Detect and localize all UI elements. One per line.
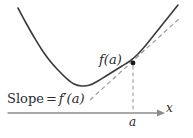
x-axis-arrow-icon [157, 109, 165, 116]
x-tick-label-a-text: a [129, 115, 136, 129]
slope-word: Slope [7, 91, 44, 106]
derivative-tangent-figure: f(a) Slope=f′(a) a x [0, 0, 193, 138]
tangent-point-marker [131, 61, 136, 66]
label-f-of-a-text: f(a) [99, 52, 122, 67]
x-axis-label: x [166, 102, 173, 114]
slope-derivative-expression: f′(a) [59, 91, 85, 106]
label-slope-equals-fprime-a: Slope=f′(a) [7, 92, 84, 105]
x-axis-label-text: x [166, 101, 173, 115]
label-f-of-a: f(a) [99, 53, 122, 66]
slope-equals-sign: = [44, 91, 59, 106]
function-curve [18, 5, 178, 86]
figure-canvas [0, 0, 193, 138]
x-tick-label-a: a [129, 116, 136, 128]
